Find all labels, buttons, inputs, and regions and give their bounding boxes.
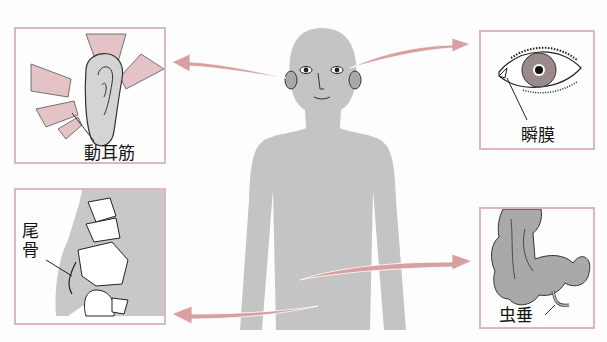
nictitating-membrane-label: 瞬膜 (521, 121, 555, 146)
arrow-to-eye-panel (350, 38, 470, 68)
panel-eye: 瞬膜 (479, 30, 595, 150)
arrow-to-ear-panel (172, 54, 286, 78)
ear-muscle-label: 動耳筋 (84, 139, 135, 164)
intestine-appendix-icon (481, 209, 593, 327)
panel-appendix: 虫垂 (479, 207, 595, 329)
appendix-label: 虫垂 (499, 301, 533, 326)
panel-coccyx: 尾骨 (14, 188, 166, 325)
panel-ear: 動耳筋 (14, 27, 166, 164)
coccyx-label: 尾骨 (22, 222, 40, 260)
